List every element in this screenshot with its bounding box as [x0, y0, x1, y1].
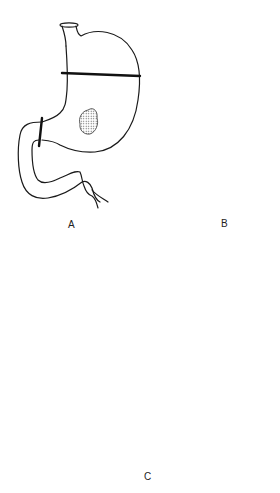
- panel-label-b: B: [221, 218, 228, 229]
- surgical-diagram: [0, 0, 280, 493]
- lesion: [79, 109, 97, 134]
- panel-label-c: C: [144, 471, 151, 482]
- resection-line-body: [62, 73, 140, 76]
- panel-label-a: A: [68, 219, 75, 230]
- panel-a-stomach: [18, 23, 140, 208]
